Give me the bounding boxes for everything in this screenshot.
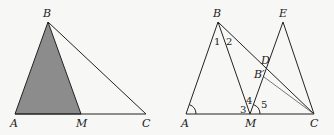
left-figure: B A M C — [9, 7, 151, 130]
label-a-left: A — [9, 117, 18, 130]
label-b-left: B — [42, 7, 51, 20]
label-m-left: M — [75, 117, 88, 130]
angle-label-4: 4 — [246, 95, 252, 106]
angle-label-2: 2 — [226, 36, 232, 47]
geometry-figures: B A M C B E D B′ A M C 1 2 3 4 5 — [0, 0, 334, 135]
label-b-right: B — [212, 7, 221, 20]
label-c-right: C — [310, 117, 319, 130]
label-a-right: A — [180, 117, 189, 130]
angle-arc-5 — [253, 105, 260, 114]
right-figure: B E D B′ A M C 1 2 3 4 5 — [180, 7, 319, 130]
label-bprime-right: B′ — [253, 68, 265, 81]
angle-label-5: 5 — [261, 99, 267, 110]
label-m-right: M — [244, 117, 257, 130]
label-e-right: E — [278, 7, 287, 20]
shaded-triangle-abm — [15, 22, 81, 114]
label-c-left: C — [142, 117, 151, 130]
angle-arc-a — [189, 105, 196, 114]
angle-label-1: 1 — [214, 36, 220, 47]
segment-ec — [283, 22, 314, 114]
segment-bprime-c — [264, 77, 314, 114]
label-d-right: D — [260, 54, 270, 67]
